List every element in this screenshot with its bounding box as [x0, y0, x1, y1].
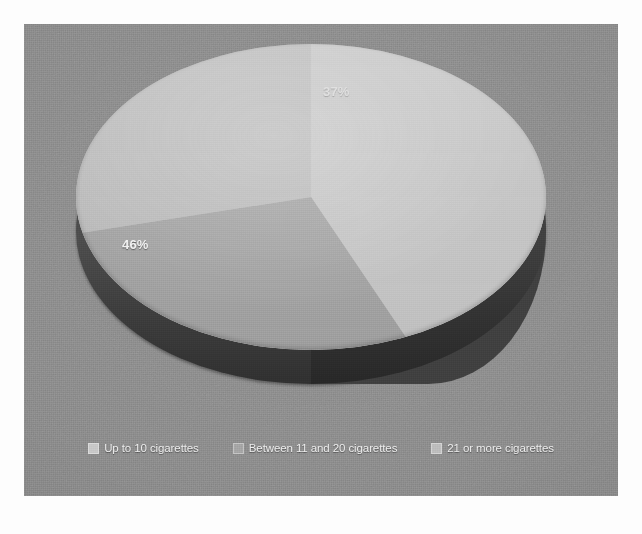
pie-chart[interactable]: 46% 37%	[76, 44, 546, 394]
legend-swatch-icon	[233, 443, 244, 454]
pie-chart-panel: 46% 37% Up to 10 cigarettes Between 11 a…	[24, 24, 618, 496]
legend-label-up-to-10-cigarettes: Up to 10 cigarettes	[104, 442, 199, 454]
legend-item-up-to-10-cigarettes[interactable]: Up to 10 cigarettes	[88, 442, 199, 454]
legend-label-between-11-and-20-cigarettes: Between 11 and 20 cigarettes	[249, 442, 398, 454]
legend-item-between-11-and-20-cigarettes[interactable]: Between 11 and 20 cigarettes	[233, 442, 398, 454]
pie-data-label-up-to-10-cigarettes: 37%	[323, 84, 350, 99]
legend-item-21-or-more-cigarettes[interactable]: 21 or more cigarettes	[431, 442, 554, 454]
pie-data-label-21-or-more-cigarettes: 46%	[122, 237, 149, 252]
pie-top-face	[76, 44, 546, 350]
legend-swatch-icon	[88, 443, 99, 454]
legend-swatch-icon	[431, 443, 442, 454]
legend-label-21-or-more-cigarettes: 21 or more cigarettes	[447, 442, 554, 454]
screenshot-root: 46% 37% Up to 10 cigarettes Between 11 a…	[0, 0, 642, 534]
chart-legend: Up to 10 cigarettes Between 11 and 20 ci…	[24, 442, 618, 454]
